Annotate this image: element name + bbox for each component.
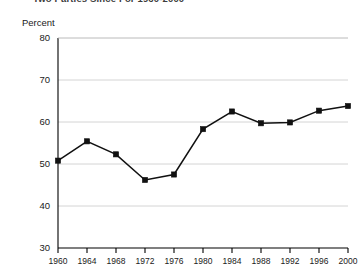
data-point-marker [229, 109, 234, 114]
chart-plot-area: 304050607080 196019641968197219761980198… [0, 0, 362, 273]
data-point-marker [55, 158, 60, 163]
x-tick-label: 2000 [339, 256, 358, 266]
x-tick-label: 1964 [78, 256, 97, 266]
y-tick-label: 50 [39, 158, 50, 169]
x-tick-label: 1976 [165, 256, 184, 266]
data-point-marker [200, 127, 205, 132]
x-tick-label: 1980 [194, 256, 213, 266]
x-tick-label: 1992 [281, 256, 300, 266]
data-point-marker [142, 177, 147, 182]
x-tickmark-group [58, 248, 348, 253]
data-point-marker [316, 108, 321, 113]
y-tick-label: 80 [39, 32, 50, 43]
y-tick-label: 60 [39, 116, 50, 127]
axis-frame [58, 38, 348, 248]
y-tick-label-group: 304050607080 [39, 32, 50, 253]
x-tick-label-group: 1960196419681972197619801984198819921996… [49, 256, 358, 266]
x-tick-label: 1968 [107, 256, 126, 266]
x-tick-label: 1972 [136, 256, 155, 266]
data-series-line [58, 106, 348, 180]
x-tick-label: 1996 [310, 256, 329, 266]
x-tick-label: 1960 [49, 256, 68, 266]
line-chart: 304050607080 196019641968197219761980198… [0, 0, 362, 273]
data-point-marker [171, 172, 176, 177]
y-tick-label: 30 [39, 242, 50, 253]
data-point-marker [84, 139, 89, 144]
data-point-marker [345, 103, 350, 108]
data-point-marker [113, 152, 118, 157]
data-point-marker [258, 121, 263, 126]
x-tick-label: 1988 [252, 256, 271, 266]
y-tick-label: 70 [39, 74, 50, 85]
data-point-marker [287, 120, 292, 125]
x-tick-label: 1984 [223, 256, 242, 266]
gridline-group [58, 38, 348, 206]
y-tick-label: 40 [39, 200, 50, 211]
